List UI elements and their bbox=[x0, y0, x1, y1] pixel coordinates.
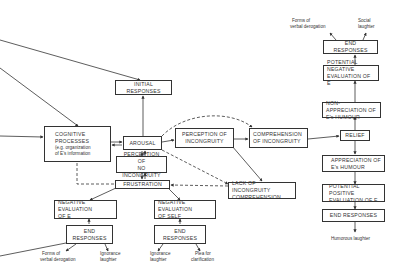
label-humorous-laughter: Humorous laughter bbox=[331, 236, 370, 242]
box-label: EVALUATION OF E bbox=[329, 197, 381, 204]
box-label: POTENTIAL POSITIVE bbox=[329, 183, 381, 197]
box-label: INITIAL RESPONSES bbox=[119, 81, 168, 95]
label-line: clarification bbox=[191, 257, 214, 263]
box-label: PERCEPTION OF bbox=[120, 151, 163, 165]
negative-evaluation-of-e-box: NEGATIVE EVALUATION OF E bbox=[54, 200, 117, 219]
box-label: NON-APPRECIATION OF bbox=[326, 100, 377, 114]
label-line: laughter bbox=[150, 257, 170, 263]
box-label: OF E bbox=[58, 213, 113, 220]
end-responses-left-box: END RESPONSES bbox=[66, 225, 113, 244]
box-label: AROUSAL bbox=[129, 140, 155, 147]
box-label: E's HUMOUR bbox=[331, 164, 381, 171]
negative-evaluation-of-self-box: NEGATIVE EVALUATION OF SELF bbox=[154, 200, 216, 219]
appreciation-box: APPRECIATION OF E's HUMOUR bbox=[322, 155, 385, 172]
perception-to-lack bbox=[232, 146, 262, 181]
box-label: END RESPONSES bbox=[330, 212, 377, 219]
box-label: PROCESSES bbox=[55, 138, 107, 145]
box-label: E's HUMOUR bbox=[326, 114, 377, 121]
box-label: END RESPONSES bbox=[70, 228, 109, 242]
label-line: laughter bbox=[100, 257, 120, 263]
box-label: END RESPONSES bbox=[327, 40, 374, 54]
label-line: laughter bbox=[358, 24, 375, 30]
frustration-box: FRUSTRATION bbox=[115, 180, 170, 189]
initial-responses-box: INITIAL RESPONSES bbox=[115, 80, 172, 95]
non-appreciation-box: NON-APPRECIATION OF E's HUMOUR bbox=[322, 102, 381, 118]
label-line: Humorous laughter bbox=[331, 236, 370, 242]
potential-positive-evaluation-box: POTENTIAL POSITIVE EVALUATION OF E bbox=[322, 184, 385, 202]
relief-box: RELIEF bbox=[340, 130, 370, 141]
label-top-forms-of-verbal-derogation: Forms of verbal derogation bbox=[290, 18, 326, 30]
box-label: PERCEPTION OF bbox=[182, 131, 227, 138]
arousal-box: AROUSAL bbox=[123, 136, 162, 150]
box-label: EVALUATION OF E bbox=[327, 73, 375, 87]
comprehension-to-relief bbox=[308, 136, 339, 139]
incoming-line-3 bbox=[0, 136, 43, 137]
end-responses-middle-box: END RESPONSES bbox=[154, 225, 206, 244]
box-label: OF SELF bbox=[158, 213, 212, 220]
box-sublabel: of E's information bbox=[55, 151, 107, 157]
label-left-ignorance-laughter: Ignorance laughter bbox=[100, 251, 120, 263]
box-label: RELIEF bbox=[345, 132, 364, 139]
comprehension-of-incongruity-box: COMPREHENSION OF INCONGRUITY bbox=[249, 128, 308, 148]
potential-negative-evaluation-box: POTENTIAL NEGATIVE EVALUATION OF E bbox=[323, 65, 379, 81]
lack-to-frustration-dashed bbox=[171, 185, 228, 186]
box-label: END RESPONSES bbox=[158, 228, 202, 242]
incoming-line-1 bbox=[0, 40, 140, 80]
perception-of-incongruity-box: PERCEPTION OF INCONGRUITY bbox=[175, 128, 234, 148]
box-label: COMPREHENSION bbox=[232, 194, 292, 201]
box-label: COGNITIVE bbox=[55, 131, 107, 138]
arousal-to-perception bbox=[162, 140, 174, 142]
box-label: INCONGRUITY bbox=[185, 138, 224, 145]
label-top-social-laughter: Social laughter bbox=[358, 18, 375, 30]
label-mid-ignorance-laughter: Ignorance laughter bbox=[150, 251, 170, 263]
box-label: COMPREHENSION bbox=[253, 131, 304, 138]
end-responses-top-right-box: END RESPONSES bbox=[323, 40, 378, 54]
box-label: NEGATIVE EVALUATION bbox=[58, 199, 113, 213]
box-label: NO INCONGRUITY bbox=[120, 165, 163, 179]
label-line: verbal derogation bbox=[290, 24, 326, 30]
label-mid-plea-for-clarification: Plea for clarification bbox=[191, 251, 214, 263]
box-label: FRUSTRATION bbox=[123, 181, 162, 188]
arousal-to-lack-dashed bbox=[162, 150, 228, 184]
box-label: NEGATIVE EVALUATION bbox=[158, 199, 212, 213]
box-label: LACK OF INCONGRUITY bbox=[232, 180, 292, 194]
end-responses-bottom-right-box: END RESPONSES bbox=[322, 209, 385, 222]
perception-of-no-incongruity-box: PERCEPTION OF NO INCONGRUITY bbox=[116, 156, 167, 173]
label-line: verbal derogation bbox=[40, 257, 76, 263]
box-label: OF INCONGRUITY bbox=[253, 138, 304, 145]
label-left-forms-of-verbal-derogation: Forms of verbal derogation bbox=[40, 251, 76, 263]
lack-of-incongruity-comprehension-box: LACK OF INCONGRUITY COMPREHENSION bbox=[228, 182, 296, 199]
box-label: POTENTIAL NEGATIVE bbox=[327, 59, 375, 73]
cognitive-processes-box: COGNITIVE PROCESSES (e.g. organization o… bbox=[44, 126, 111, 162]
box-label: APPRECIATION OF bbox=[331, 157, 381, 164]
cognitive-frustration-loop bbox=[77, 163, 114, 184]
incoming-line-2 bbox=[0, 68, 78, 126]
